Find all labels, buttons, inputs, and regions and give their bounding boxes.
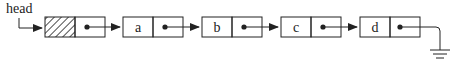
null-ground-icon	[430, 50, 450, 58]
node-value: b	[214, 20, 221, 35]
list-node-d: d	[360, 17, 440, 50]
node-value: a	[135, 20, 142, 35]
node-value: c	[293, 20, 299, 35]
list-node-a: a	[123, 17, 199, 37]
header-node	[45, 17, 120, 37]
linked-list-diagram: head a b c d	[0, 0, 466, 65]
head-pointer-arrow	[19, 18, 42, 28]
node-value: d	[372, 20, 379, 35]
list-node-b: b	[202, 17, 278, 37]
head-label: head	[6, 1, 32, 16]
list-node-c: c	[281, 17, 357, 37]
